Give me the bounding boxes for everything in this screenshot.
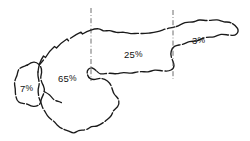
tail-outline-top xyxy=(177,20,208,27)
blob-7-outline-right xyxy=(41,67,42,79)
region-label-65-value: 65 xyxy=(58,73,69,84)
tail-outline-bottom xyxy=(207,34,229,37)
tail-outline-nose xyxy=(231,24,238,36)
lobe-outline-left-upper xyxy=(38,72,39,81)
main-outline-top-edge-2 xyxy=(141,29,165,33)
connector-7-to-65-lower-2 xyxy=(56,101,62,103)
blob-7-outline-left-2 xyxy=(15,70,19,81)
region-label-65: 65% xyxy=(58,74,77,84)
percent-symbol-icon: % xyxy=(25,83,33,93)
region-label-7: 7% xyxy=(20,84,33,94)
region-label-25: 25% xyxy=(124,50,143,60)
blob-7-outline-top xyxy=(28,62,40,65)
connector-7-to-65-lower xyxy=(44,92,54,100)
diagram-svg xyxy=(0,0,250,141)
blob-7-outline-left-3 xyxy=(20,65,28,68)
main-outline-bottom-edge-2 xyxy=(109,72,138,74)
main-outline-upper-left-arc xyxy=(38,39,69,72)
tail-outline-top-2 xyxy=(210,20,232,23)
lobe-outline-right-2 xyxy=(113,101,119,111)
main-outline-inlet-notch-2 xyxy=(88,75,100,79)
percent-symbol-icon: % xyxy=(197,35,205,45)
blob-7-outline-bottom xyxy=(27,104,38,106)
main-outline-top-edge-3 xyxy=(168,27,176,29)
blob-7-outline-bottom-2 xyxy=(16,97,24,104)
lobe-outline-right xyxy=(112,88,118,99)
lobe-outline-bottom-3 xyxy=(53,121,62,129)
blob-7-outline-left xyxy=(15,83,16,95)
main-outline-inlet-notch-3 xyxy=(102,79,111,86)
percent-symbol-icon: % xyxy=(135,49,143,59)
lobe-outline-right-3 xyxy=(105,113,113,122)
main-outline-inlet-notch xyxy=(87,68,96,73)
main-outline-bottom-edge-3 xyxy=(97,71,107,74)
main-outline-top-edge xyxy=(91,29,139,34)
lobe-outline-bottom-2 xyxy=(64,129,85,132)
region-label-3: 3% xyxy=(192,36,205,46)
lobe-outline-left-lower xyxy=(44,110,51,119)
lobe-outline-left-mid xyxy=(38,84,39,96)
main-outline-upper-left-arc-2 xyxy=(71,30,91,38)
diagram-canvas: 7% 65% 25% 3% xyxy=(0,0,250,141)
percent-symbol-icon: % xyxy=(69,73,77,83)
tail-outline-bottom-3 xyxy=(171,45,180,58)
region-label-25-value: 25 xyxy=(124,49,135,60)
lobe-outline-bottom xyxy=(87,123,103,130)
blob-7-outline-right-2 xyxy=(41,80,44,91)
main-outline-bottom-edge xyxy=(141,70,163,72)
